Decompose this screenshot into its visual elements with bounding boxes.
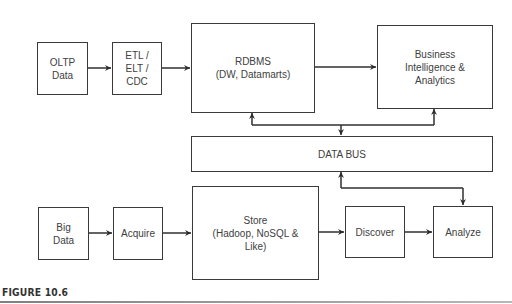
node-label: Acquire bbox=[121, 227, 155, 240]
node-label: Store (Hadoop, NoSQL & Like) bbox=[213, 214, 299, 253]
node-label: ETL / ELT / CDC bbox=[125, 49, 149, 88]
node-etl: ETL / ELT / CDC bbox=[112, 42, 162, 95]
node-label: OLTP Data bbox=[50, 56, 75, 82]
node-discover: Discover bbox=[345, 206, 405, 258]
figure-caption: FIGURE 10.6 bbox=[2, 286, 68, 298]
node-rdbms: RDBMS (DW, Datamarts) bbox=[191, 23, 315, 113]
node-analyze: Analyze bbox=[433, 206, 493, 258]
node-acquire: Acquire bbox=[113, 207, 163, 260]
node-store: Store (Hadoop, NoSQL & Like) bbox=[192, 186, 319, 280]
node-big-data: Big Data bbox=[38, 207, 89, 260]
node-bi-analytics: Business Intelligence & Analytics bbox=[377, 25, 493, 109]
node-label: DATA BUS bbox=[318, 148, 366, 161]
node-label: Analyze bbox=[445, 226, 481, 239]
node-data-bus: DATA BUS bbox=[191, 136, 493, 172]
caption-rule bbox=[0, 301, 512, 303]
node-label: Discover bbox=[356, 226, 395, 239]
node-label: Big Data bbox=[53, 221, 74, 247]
node-oltp-data: OLTP Data bbox=[37, 42, 88, 95]
node-label: Business Intelligence & Analytics bbox=[405, 48, 465, 87]
node-label: RDBMS (DW, Datamarts) bbox=[216, 55, 290, 81]
